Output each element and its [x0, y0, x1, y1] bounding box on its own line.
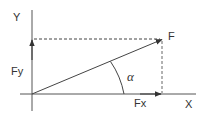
y-axis-label: Y [13, 11, 21, 23]
fx-label: Fx [134, 97, 147, 109]
force-vector-arrow [32, 40, 162, 95]
fy-label: Fy [11, 65, 24, 77]
angle-arc [111, 62, 125, 95]
x-axis-label: X [185, 98, 193, 110]
force-label: F [168, 30, 175, 42]
angle-alpha-label: α [127, 69, 135, 84]
force-diagram: Y X F Fy Fx α [0, 0, 204, 113]
